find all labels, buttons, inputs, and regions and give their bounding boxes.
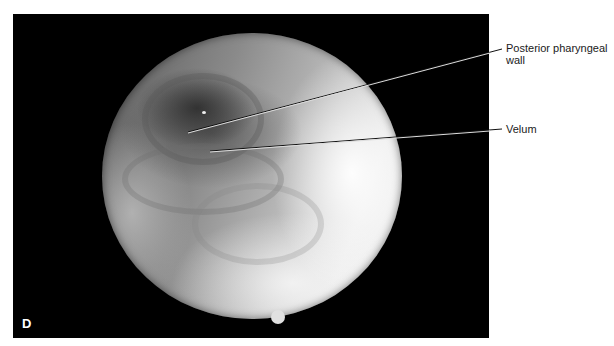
endoscope-view-circle xyxy=(102,33,402,319)
label-velum: Velum xyxy=(506,123,537,135)
light-reflection xyxy=(202,111,206,114)
tissue-fold xyxy=(192,183,324,265)
label-line-1: Velum xyxy=(506,123,537,135)
label-posterior-pharyngeal-wall: Posterior pharyngeal wall xyxy=(506,42,608,66)
label-line-2: wall xyxy=(506,54,608,66)
panel-letter: D xyxy=(22,317,31,330)
scope-edge-nub xyxy=(271,310,285,324)
endoscopic-image-panel: D xyxy=(13,14,489,338)
label-line-1: Posterior pharyngeal xyxy=(506,42,608,54)
